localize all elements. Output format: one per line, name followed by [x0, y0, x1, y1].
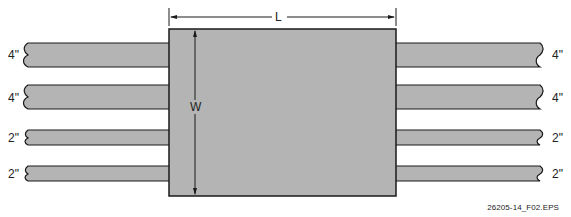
pipe-right-2in-1: [396, 130, 543, 145]
pipe-size-label-right-1: 4": [552, 49, 563, 61]
pipe-left-2in-2: [25, 166, 169, 181]
pipe-size-label-left-2: 4": [8, 92, 19, 104]
pipe-left-4in-1: [24, 43, 170, 67]
figure-id: 26205-14_F02.EPS: [487, 203, 559, 212]
pipe-size-label-right-4: 2": [552, 168, 563, 180]
pipe-right-2in-2: [396, 166, 543, 181]
pipe-left-2in-1: [25, 130, 169, 145]
box: [169, 29, 396, 196]
pipe-size-label-left-4: 2": [8, 168, 19, 180]
pipe-left-4in-2: [24, 85, 170, 109]
pipe-size-label-right-2: 4": [552, 92, 563, 104]
pipe-right-4in-2: [396, 85, 543, 109]
box-pipe-diagram: [0, 0, 571, 217]
width-label: W: [190, 101, 201, 113]
pipe-size-label-right-3: 2": [552, 132, 563, 144]
pipe-size-label-left-3: 2": [8, 132, 19, 144]
pipe-size-label-left-1: 4": [8, 49, 19, 61]
length-label: L: [275, 11, 282, 23]
pipe-right-4in-1: [396, 43, 543, 67]
